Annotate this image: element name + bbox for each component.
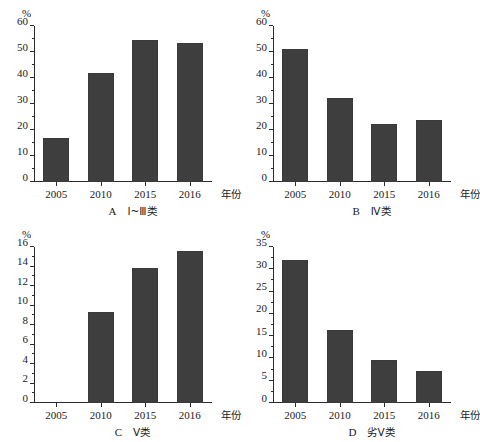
y-axis-tick (269, 380, 273, 381)
x-axis-title: 年份 (221, 189, 241, 200)
y-axis-minor-tick (32, 334, 34, 335)
y-axis-tick (269, 51, 273, 52)
x-axis-title: 年份 (460, 410, 480, 421)
y-axis-tick-label: 20 (256, 303, 267, 314)
y-axis-minor-tick (32, 116, 34, 117)
bar (282, 260, 308, 403)
panel-caption: C Ⅴ类 (0, 426, 239, 438)
x-axis-tick-label: 2015 (134, 189, 156, 200)
y-axis-tick (269, 25, 273, 26)
y-axis-tick-label: 35 (256, 236, 267, 247)
plot-area: 01020304050602005201020152016年份 (34, 26, 212, 182)
y-axis-tick (30, 402, 34, 403)
x-axis-tick (101, 403, 102, 407)
y-axis-tick (269, 268, 273, 269)
y-axis-tick (30, 155, 34, 156)
bar (88, 312, 114, 403)
y-axis-tick (269, 291, 273, 292)
plot-area: 051015202530352005201020152016年份 (273, 247, 451, 403)
y-axis-tick (269, 103, 273, 104)
y-axis-minor-tick (32, 392, 34, 393)
bar (132, 268, 158, 403)
bar (43, 138, 69, 182)
y-axis-tick (30, 285, 34, 286)
x-axis-tick (190, 182, 191, 186)
y-axis-tick-label: 0 (23, 392, 29, 403)
x-axis-tick (384, 182, 385, 186)
bar (177, 251, 203, 403)
y-axis-minor-tick (271, 38, 273, 39)
x-axis-tick (56, 182, 57, 186)
x-axis-title: 年份 (460, 189, 480, 200)
y-axis-minor-tick (271, 142, 273, 143)
y-axis-tick-label: 16 (17, 236, 28, 247)
plot-area: 01020304050602005201020152016年份 (273, 26, 451, 182)
y-axis-tick-label: 20 (256, 119, 267, 130)
y-axis-minor-tick (32, 353, 34, 354)
x-axis-tick-label: 2010 (90, 189, 112, 200)
y-axis-tick (30, 181, 34, 182)
panel-caption-category: Ⅴ类 (133, 426, 150, 438)
x-axis-tick-label: 2010 (329, 189, 351, 200)
y-axis-tick (30, 103, 34, 104)
y-axis-tick-label: 15 (256, 325, 267, 336)
x-axis-tick (295, 403, 296, 407)
bar (416, 371, 442, 403)
panel-caption: A Ⅰ~Ⅲ类 (0, 205, 239, 217)
x-axis-tick-label: 2005 (284, 189, 306, 200)
x-axis-tick (295, 182, 296, 186)
y-axis-line (273, 247, 274, 403)
x-axis-tick-label: 2005 (284, 410, 306, 421)
x-axis-tick-label: 2016 (179, 189, 201, 200)
y-axis-tick-label: 5 (262, 370, 268, 381)
y-axis-minor-tick (32, 38, 34, 39)
x-axis-tick (56, 403, 57, 407)
panel-c: %02468101214162005201020152016年份C Ⅴ类 (0, 221, 239, 442)
y-axis-minor-tick (271, 90, 273, 91)
y-axis-tick-label: 0 (262, 171, 268, 182)
bar (371, 124, 397, 183)
y-axis-tick-label: 6 (23, 334, 29, 345)
y-axis-tick (30, 51, 34, 52)
panel-d: %051015202530352005201020152016年份D 劣Ⅴ类 (239, 221, 478, 442)
y-axis-minor-tick (271, 346, 273, 347)
y-axis-minor-tick (32, 142, 34, 143)
x-axis-tick-label: 2015 (373, 410, 395, 421)
panel-caption-letter: B (352, 205, 359, 217)
x-axis-tick (340, 403, 341, 407)
y-axis-tick-label: 10 (256, 347, 267, 358)
bar (132, 40, 158, 182)
panel-caption-category: Ⅳ类 (371, 205, 391, 217)
x-axis-tick (190, 403, 191, 407)
x-axis-tick (145, 182, 146, 186)
y-axis-tick-label: 40 (256, 67, 267, 78)
panel-caption-category: Ⅰ~Ⅲ类 (127, 205, 156, 217)
x-axis-tick-label: 2016 (418, 410, 440, 421)
y-axis-tick (269, 129, 273, 130)
panel-caption-letter: C (115, 426, 122, 438)
y-axis-tick (269, 357, 273, 358)
y-axis-tick (30, 246, 34, 247)
plot-area: 02468101214162005201020152016年份 (34, 247, 212, 403)
y-axis-minor-tick (32, 314, 34, 315)
x-axis-tick (429, 403, 430, 407)
y-axis-minor-tick (271, 116, 273, 117)
y-axis-tick-label: 25 (256, 281, 267, 292)
y-axis-tick-label: 10 (17, 295, 28, 306)
y-axis-tick-label: 20 (17, 119, 28, 130)
y-axis-tick (30, 324, 34, 325)
y-axis-tick-label: 4 (23, 353, 29, 364)
y-axis-tick (30, 266, 34, 267)
panel-a: %01020304050602005201020152016年份A Ⅰ~Ⅲ类 (0, 0, 239, 221)
x-axis-tick-label: 2010 (329, 410, 351, 421)
y-axis-tick (269, 335, 273, 336)
y-axis-line (34, 247, 35, 403)
y-axis-tick-label: 30 (17, 93, 28, 104)
bar (371, 360, 397, 403)
x-axis-tick-label: 2005 (45, 189, 67, 200)
x-axis-tick-label: 2010 (90, 410, 112, 421)
y-axis-minor-tick (271, 257, 273, 258)
y-axis-tick-label: 30 (256, 93, 267, 104)
y-axis-tick-label: 0 (262, 392, 268, 403)
x-axis-tick-label: 2015 (373, 189, 395, 200)
